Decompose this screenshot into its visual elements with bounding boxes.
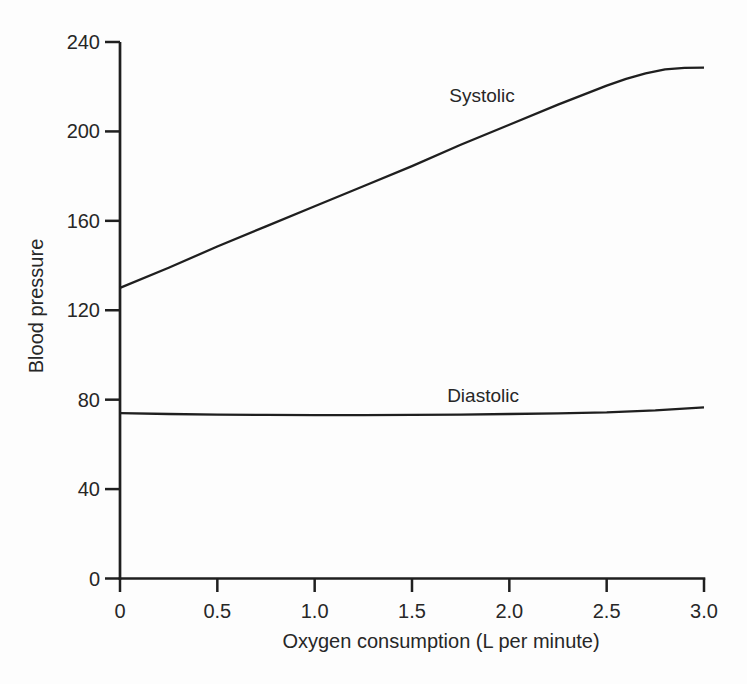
x-tick-label: 2.5	[593, 600, 621, 622]
y-tick-label: 240	[67, 31, 100, 53]
blood-pressure-chart: 04080120160200240 00.51.01.52.02.53.0 Sy…	[0, 0, 747, 684]
x-axis-ticks: 00.51.01.52.02.53.0	[114, 579, 717, 623]
y-tick-label: 160	[67, 210, 100, 232]
y-tick-label: 0	[89, 568, 100, 590]
y-tick-label: 200	[67, 120, 100, 142]
x-tick-label: 3.0	[690, 600, 718, 622]
x-tick-label: 1.5	[398, 600, 426, 622]
series-label-systolic: Systolic	[449, 85, 514, 106]
y-axis-title: Blood pressure	[25, 239, 47, 374]
series-lines	[120, 68, 704, 415]
axes	[119, 42, 706, 580]
y-tick-label: 120	[67, 299, 100, 321]
y-axis-ticks: 04080120160200240	[67, 31, 120, 590]
x-tick-label: 2.0	[495, 600, 523, 622]
x-axis-title: Oxygen consumption (L per minute)	[282, 630, 599, 652]
x-tick-label: 1.0	[301, 600, 329, 622]
x-tick-label: 0	[114, 600, 125, 622]
series-label-diastolic: Diastolic	[447, 385, 519, 406]
y-tick-label: 40	[78, 478, 100, 500]
series-line-diastolic	[120, 407, 704, 415]
y-tick-label: 80	[78, 389, 100, 411]
chart-canvas: 04080120160200240 00.51.01.52.02.53.0 Sy…	[0, 0, 747, 684]
series-labels: SystolicDiastolic	[447, 85, 519, 406]
series-line-systolic	[120, 68, 704, 288]
x-tick-label: 0.5	[203, 600, 231, 622]
